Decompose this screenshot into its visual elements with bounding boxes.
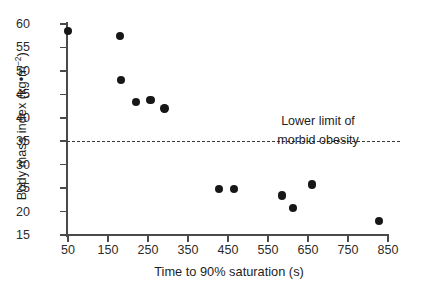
x-tick-650 <box>307 236 309 242</box>
x-tick-label-850: 850 <box>368 244 408 257</box>
x-tick-50 <box>67 236 69 242</box>
data-point <box>160 104 168 112</box>
x-tick-label-50: 50 <box>48 244 88 257</box>
y-tick-50 <box>60 70 66 72</box>
y-axis-title-exponent: −2 <box>13 56 23 66</box>
data-point <box>278 191 286 199</box>
x-tick-label-750: 750 <box>328 244 368 257</box>
y-axis-title-tail: ) <box>14 52 29 56</box>
y-axis-title-base: Body mass index (kg•m <box>14 66 29 200</box>
morbid-obesity-annotation: Lower limit of morbid obesity <box>243 112 393 151</box>
data-point <box>116 32 124 40</box>
y-tick-20 <box>60 211 66 213</box>
x-tick-label-250: 250 <box>128 244 168 257</box>
y-tick-45 <box>60 94 66 96</box>
x-tick-750 <box>347 236 349 242</box>
y-tick-35 <box>60 140 66 142</box>
y-tick-15 <box>60 234 66 236</box>
data-point <box>289 204 297 212</box>
y-axis-title: Body mass index (kg•m−2) <box>13 21 29 231</box>
y-tick-40 <box>60 117 66 119</box>
annotation-line-2: morbid obesity <box>243 131 393 150</box>
x-tick-label-550: 550 <box>248 244 288 257</box>
data-point <box>146 96 154 104</box>
data-point <box>308 180 316 188</box>
x-tick-550 <box>267 236 269 242</box>
y-tick-55 <box>60 47 66 49</box>
x-tick-label-450: 450 <box>208 244 248 257</box>
x-tick-label-350: 350 <box>168 244 208 257</box>
x-tick-150 <box>107 236 109 242</box>
y-tick-25 <box>60 187 66 189</box>
x-tick-label-150: 150 <box>88 244 128 257</box>
y-tick-60 <box>60 23 66 25</box>
x-tick-450 <box>227 236 229 242</box>
x-tick-label-650: 650 <box>288 244 328 257</box>
scatter-plot-figure: 15202530354045505560 5015025035045055065… <box>0 0 421 290</box>
annotation-line-1: Lower limit of <box>281 114 355 128</box>
x-axis-title: Time to 90% saturation (s) <box>68 264 390 279</box>
x-tick-250 <box>147 236 149 242</box>
y-tick-30 <box>60 164 66 166</box>
x-tick-850 <box>387 236 389 242</box>
x-tick-350 <box>187 236 189 242</box>
